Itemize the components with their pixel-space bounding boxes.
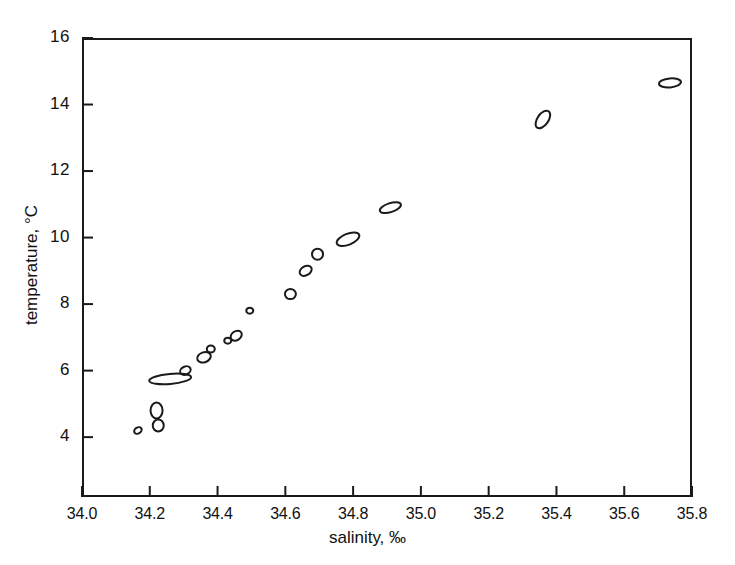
x-tick-label: 35.8 (652, 505, 732, 523)
ts-diagram-figure: 16141210864 34.034.234.434.634.835.035.2… (0, 0, 735, 565)
x-axis-title: salinity, ‰ (0, 528, 735, 548)
y-tick-label: 4 (20, 426, 70, 446)
plot-area-frame (82, 38, 692, 497)
y-tick-label: 16 (20, 27, 70, 47)
y-tick-label: 14 (20, 94, 70, 114)
y-axis-title: temperature, °C (22, 135, 42, 395)
